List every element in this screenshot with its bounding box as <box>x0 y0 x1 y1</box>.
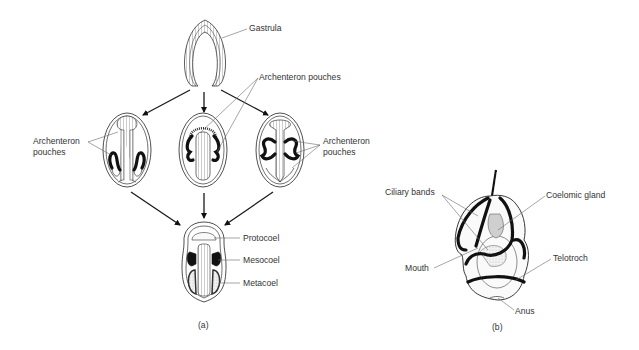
anus-label: Anus <box>515 306 535 316</box>
telotroch-label: Telotroch <box>553 253 588 263</box>
center-embryo-drawing <box>179 113 227 187</box>
coelomic-gland-label: Coelomic gland <box>546 190 605 200</box>
archenteron-pouches-center-label: Archenteron pouches <box>259 72 341 82</box>
gastrula-drawing <box>184 20 225 86</box>
arrow-from-left-embryo <box>131 192 180 225</box>
mesocoel-label: Mesocoel <box>243 255 280 265</box>
archenteron-pouches-right-label-line2: pouches <box>323 147 356 157</box>
anus-leader <box>498 298 514 310</box>
metacoel-label: Metacoel <box>243 278 278 288</box>
archenteron-pouches-left-label-line1: Archenteron <box>33 136 80 146</box>
ciliary-bands-label: Ciliary bands <box>385 187 435 197</box>
left-embryo-drawing <box>103 113 151 187</box>
center-pouch-leader-2 <box>217 78 258 152</box>
tripartite-embryo-drawing <box>182 222 226 302</box>
protocoel-label: Protocoel <box>243 233 279 243</box>
gastrula-leader <box>222 29 247 38</box>
panel-a: Gastrula Archenteron pouches <box>33 20 370 330</box>
arrow-to-left-embryo <box>143 90 190 115</box>
tornaria-larva-drawing <box>455 170 528 300</box>
arrow-from-right-embryo <box>225 192 273 225</box>
mouth-label: Mouth <box>405 263 429 273</box>
coelom-formation-figure: Gastrula Archenteron pouches <box>0 0 639 350</box>
archenteron-pouches-left-label-line2: pouches <box>33 147 66 157</box>
panel-a-caption: (a) <box>198 320 209 330</box>
panel-b: Ciliary bands Coelomic gland Mouth Telot… <box>385 170 605 332</box>
gastrula-label: Gastrula <box>249 23 282 33</box>
right-embryo-drawing <box>256 113 304 187</box>
archenteron-pouches-right-label-line1: Archenteron <box>323 136 370 146</box>
panel-b-caption: (b) <box>492 322 503 332</box>
